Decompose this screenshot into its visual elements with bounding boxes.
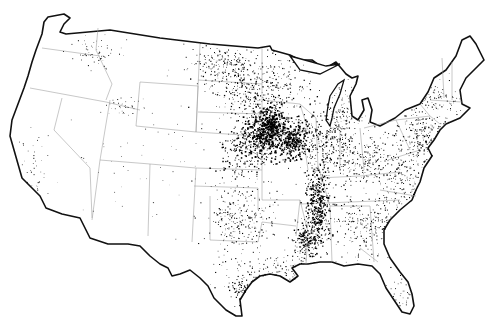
us-dot-density-map <box>0 0 503 329</box>
us-outline <box>10 14 484 316</box>
